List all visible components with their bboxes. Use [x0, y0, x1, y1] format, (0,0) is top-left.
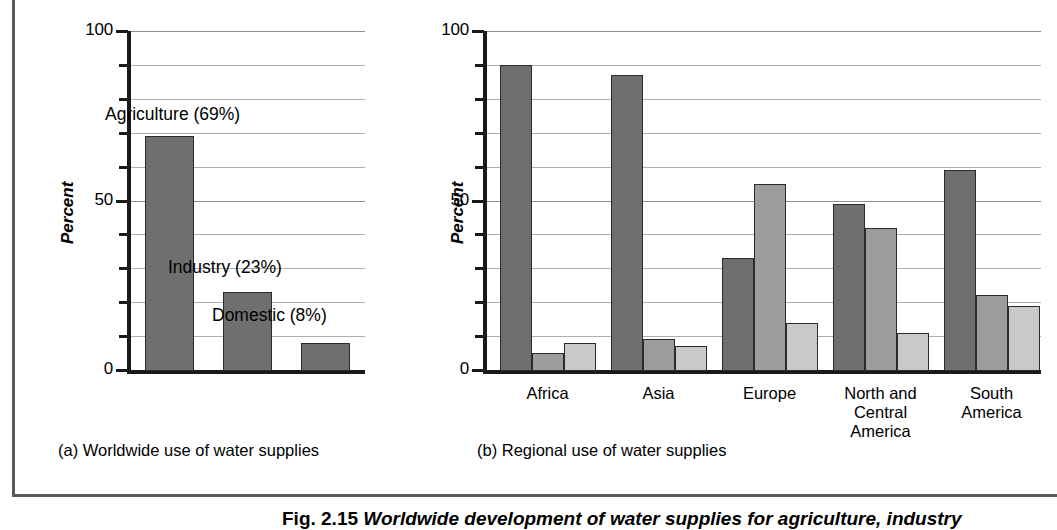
bar-south-america-domestic [1008, 306, 1040, 371]
y-axis-tick [475, 132, 484, 135]
gridline [486, 133, 1041, 134]
y-axis-tick-label: 100 [55, 20, 113, 40]
y-axis-tick [119, 335, 128, 338]
y-axis-tick [472, 200, 484, 203]
bar-africa-industry [532, 353, 564, 371]
figure-caption-number: Fig. 2.15 [282, 508, 358, 529]
gridline [486, 31, 1041, 32]
y-axis-tick [475, 64, 484, 67]
y-axis-tick [119, 64, 128, 67]
y-axis-tick [475, 301, 484, 304]
bar-europe-agriculture [722, 258, 754, 371]
y-axis-tick [116, 369, 128, 372]
y-axis-tick [475, 267, 484, 270]
y-axis-tick [116, 30, 128, 33]
y-axis-tick [119, 166, 128, 169]
y-axis-tick [475, 233, 484, 236]
bar-europe-domestic [786, 323, 818, 371]
y-axis-tick-label: 0 [55, 359, 113, 379]
y-axis-tick [472, 369, 484, 372]
bar-industry-v [223, 292, 272, 371]
bar-africa-agriculture [500, 65, 532, 371]
y-axis-tick [475, 166, 484, 169]
bar-south-america-agriculture [944, 170, 976, 371]
axis-label-y-a: Percent [58, 182, 78, 244]
y-axis-tick [119, 267, 128, 270]
figure-caption: Fig. 2.15 Worldwide development of water… [282, 508, 962, 530]
plot-area-b: 050100AfricaAsiaEuropeNorth and Central … [430, 14, 1050, 414]
chart-regional-use: 050100AfricaAsiaEuropeNorth and Central … [430, 14, 1050, 414]
gridline [130, 99, 365, 100]
bar-europe-industry [754, 184, 786, 371]
y-axis-tick-label: 100 [411, 20, 469, 40]
y-axis-tick [475, 98, 484, 101]
bar-north-and-central-america-agriculture [833, 204, 865, 371]
data-label-agriculture: Agriculture (69%) [105, 104, 240, 125]
subcaption-panel-b: (b) Regional use of water supplies [477, 441, 726, 460]
bar-domestic-v [301, 343, 350, 371]
y-axis-tick [116, 200, 128, 203]
figure-caption-text: Worldwide development of water supplies … [363, 508, 961, 529]
y-axis-tick [472, 30, 484, 33]
y-axis-tick [475, 335, 484, 338]
gridline [130, 31, 365, 32]
bar-asia-industry [643, 339, 675, 371]
bar-north-and-central-america-industry [865, 228, 897, 371]
data-label-industry: Industry (23%) [168, 257, 282, 278]
bar-asia-domestic [675, 346, 707, 371]
bar-africa-domestic [564, 343, 596, 371]
gridline [130, 65, 365, 66]
data-label-domestic: Domestic (8%) [212, 305, 327, 326]
frame-bottom-rule [12, 494, 1057, 497]
gridline [486, 167, 1041, 168]
y-axis-tick [119, 301, 128, 304]
gridline [486, 99, 1041, 100]
chart-worldwide-use: 050100 Percent [40, 14, 380, 414]
y-axis-tick [119, 132, 128, 135]
bar-north-and-central-america-domestic [897, 333, 929, 371]
bar-south-america-industry [976, 295, 1008, 371]
gridline [130, 133, 365, 134]
gridline [486, 65, 1041, 66]
y-axis-tick [119, 98, 128, 101]
frame-left-rule [12, 0, 15, 497]
bar-agriculture-v [145, 136, 194, 371]
subcaption-panel-a: (a) Worldwide use of water supplies [58, 441, 319, 460]
axis-label-y-b: Percent [448, 182, 468, 244]
x-axis-category-label: South America [922, 384, 1057, 422]
plot-area-a: 050100 [40, 14, 380, 414]
y-axis-tick [119, 233, 128, 236]
y-axis-tick-label: 0 [411, 359, 469, 379]
bar-asia-agriculture [611, 75, 643, 371]
